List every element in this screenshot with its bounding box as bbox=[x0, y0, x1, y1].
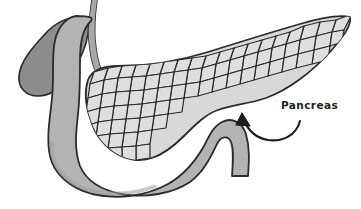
pancreas-label: Pancreas bbox=[281, 99, 338, 111]
bile-duct-group bbox=[89, 0, 101, 70]
curved-arrow-head bbox=[236, 113, 250, 126]
pancreas-illustration: Pancreas bbox=[0, 0, 361, 209]
anatomy-diagram: Pancreas bbox=[0, 0, 361, 209]
curved-arrow-shaft bbox=[244, 120, 300, 140]
